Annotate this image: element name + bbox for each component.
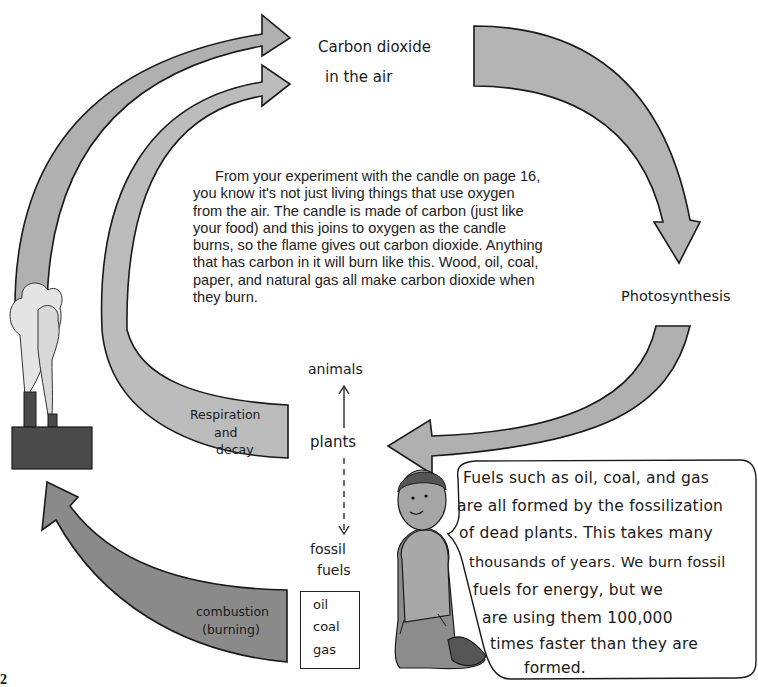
food-chain-animals: animals <box>308 361 363 377</box>
co2-label-line2: in the air <box>325 68 392 86</box>
combustion-label-line2: (burning) <box>202 622 260 637</box>
bubble-line-2: are all formed by the fossilization <box>457 497 723 515</box>
body-paragraph-text: From your experiment with the candle on … <box>193 168 543 306</box>
bubble-line-5: fuels for energy, but we <box>473 581 663 599</box>
arrow-photosynthesis-to-plants <box>388 326 690 474</box>
food-chain-fossil: fossil <box>310 541 346 557</box>
body-paragraph: From your experiment with the candle on … <box>193 168 543 306</box>
bubble-line-8: formed. <box>524 659 586 677</box>
co2-label-line1: Carbon dioxide <box>318 38 431 56</box>
bubble-line-3: of dead plants. This takes many <box>459 524 713 542</box>
respiration-label-line2: and <box>214 425 238 440</box>
respiration-label-line1: Respiration <box>190 407 260 422</box>
fuel-coal: coal <box>313 619 340 634</box>
photosynthesis-label: Photosynthesis <box>621 288 731 304</box>
food-chain-fuels: fuels <box>317 562 351 578</box>
combustion-label-line1: combustion <box>196 604 269 619</box>
fuel-gas: gas <box>313 642 336 657</box>
bubble-line-7: times faster than they are <box>490 635 698 653</box>
bubble-line-6: are using them 100,000 <box>482 609 673 627</box>
factory-illustration <box>10 283 92 469</box>
bubble-line-1: Fuels such as oil, coal, and gas <box>463 469 709 487</box>
respiration-label-line3: decay <box>216 442 254 457</box>
page-number: 2 <box>0 672 7 687</box>
fuel-oil: oil <box>313 597 328 612</box>
bubble-line-4: thousands of years. We burn fossil <box>469 554 726 570</box>
fossil-fuel-box: oil coal gas <box>300 591 360 669</box>
food-chain-plants: plants <box>310 433 356 451</box>
